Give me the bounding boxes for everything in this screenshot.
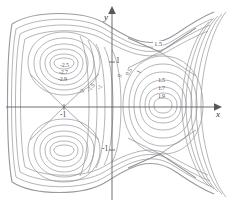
y-tick-label-1: 1: [116, 57, 120, 65]
y-tick-label-minus1: -1: [102, 145, 108, 153]
contour-label-right-1: 1.5: [158, 77, 165, 83]
contour-label-left-2: -2.7: [59, 69, 68, 75]
x-axis-label: x: [216, 110, 220, 119]
mid-field-contours: [80, 36, 121, 176]
contour-label-left-1: -2.5: [60, 62, 69, 68]
contour-label-top-saddle: 1.5: [153, 41, 163, 48]
contour-label-left-3: -2.9: [58, 76, 67, 82]
y-axis-label: y: [104, 13, 108, 22]
y-axis-arrow: [108, 6, 116, 14]
x-tick-label-minus1: -1: [60, 111, 66, 119]
contour-plot-canvas: [0, 0, 228, 207]
contour-plot-figure: y x -1 1 -1 -2.5 -2.7 -2.9 1.5 1.7 1.9 1…: [0, 0, 228, 207]
outer-contour-group: [8, 12, 215, 194]
axes-group: [6, 6, 222, 200]
contour-label-right-3: 1.9: [158, 93, 165, 99]
contour-label-right-2: 1.7: [158, 85, 165, 91]
